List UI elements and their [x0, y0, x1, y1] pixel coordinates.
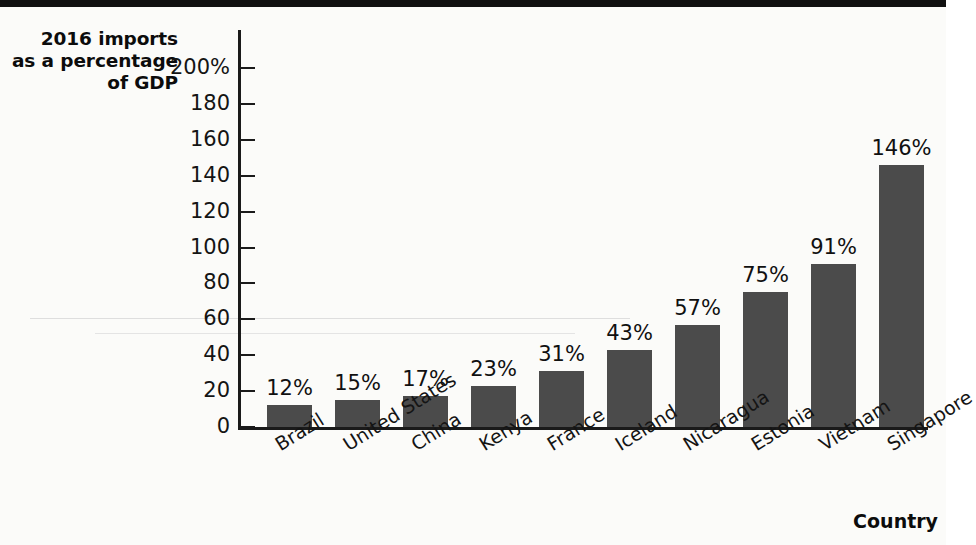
bar-value-label: 31%: [517, 344, 607, 365]
y-axis-tick-label: 20: [168, 380, 230, 401]
y-axis-tick-labels: 200%180160140120100806040200: [168, 0, 230, 545]
y-axis-tick-mark: [241, 103, 255, 105]
y-axis-tick-label: 0: [168, 416, 230, 437]
y-axis-tick-mark: [241, 211, 255, 213]
y-axis-tick-label: 120: [168, 201, 230, 222]
y-axis-tick-mark: [241, 175, 255, 177]
y-axis-tick-label: 40: [168, 344, 230, 365]
y-axis-tick-label: 180: [168, 93, 230, 114]
y-axis-tick-mark: [241, 139, 255, 141]
y-axis-line: [238, 30, 241, 429]
y-axis-tick-mark: [241, 318, 255, 320]
bar-value-label: 75%: [721, 265, 811, 286]
y-axis-tick-label: 200%: [168, 57, 230, 78]
y-axis-tick-mark: [241, 67, 255, 69]
y-axis-tick-mark: [241, 426, 255, 428]
bar[interactable]: [879, 165, 924, 427]
bar[interactable]: [675, 325, 720, 427]
y-axis-tick-mark: [241, 354, 255, 356]
bar-value-label: 91%: [789, 237, 879, 258]
x-axis-title: Country: [853, 510, 938, 532]
y-axis-tick-label: 160: [168, 129, 230, 150]
y-axis-tick-label: 60: [168, 308, 230, 329]
y-axis-tick-mark: [241, 247, 255, 249]
bar-value-label: 57%: [653, 298, 743, 319]
bar-value-label: 146%: [857, 138, 947, 159]
y-axis-tick-label: 100: [168, 237, 230, 258]
bar[interactable]: [811, 264, 856, 427]
y-axis-tick-label: 140: [168, 165, 230, 186]
bar-value-label: 43%: [585, 323, 675, 344]
y-axis-tick-label: 80: [168, 272, 230, 293]
y-axis-tick-mark: [241, 282, 255, 284]
